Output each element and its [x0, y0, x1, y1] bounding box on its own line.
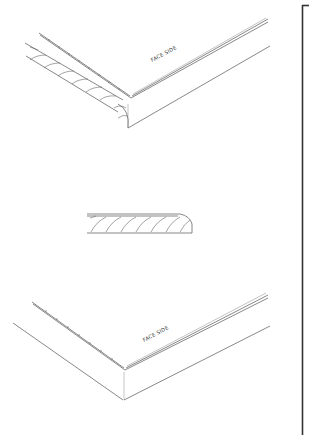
- frame-border: [302, 5, 309, 435]
- top-corner-view: FACE SIDE: [25, 18, 270, 128]
- face-side-label-top: FACE SIDE: [150, 44, 178, 63]
- bottom-corner-view: FACE SIDE: [13, 293, 270, 400]
- technical-drawing: FACE SIDE: [0, 0, 309, 435]
- section-profile-view: [87, 214, 192, 233]
- face-side-label-bottom: FACE SIDE: [142, 324, 170, 343]
